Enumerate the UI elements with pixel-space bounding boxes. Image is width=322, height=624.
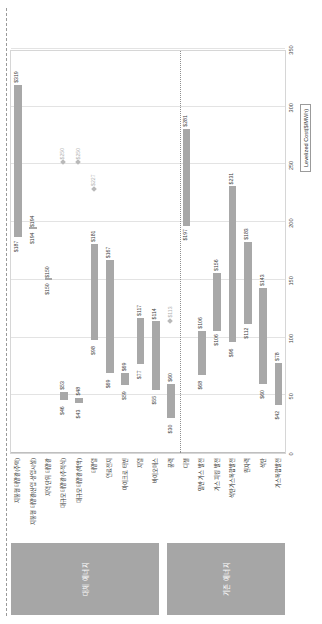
x-tick-label: 250 <box>288 161 294 170</box>
value-label-high: $69 <box>121 363 127 372</box>
category-label: 바이오매스 <box>149 458 162 483</box>
bar-range <box>29 227 37 229</box>
value-label-low: $106 <box>213 334 219 346</box>
value-label-low: $77 <box>136 370 142 379</box>
marker-diamond <box>60 160 66 166</box>
bar-range <box>244 242 252 324</box>
chart-row: $55$114 <box>149 51 164 453</box>
bar-range <box>259 288 267 384</box>
marker-diamond <box>167 318 173 324</box>
chart-row: $187$319 <box>11 51 26 453</box>
category-label-column: 지붕형 태양광(주택)지붕형 태양광(산업·상업시설)지역 단위 태양광대규모 … <box>10 456 286 534</box>
value-label-high: $106 <box>197 317 203 329</box>
value-label-high: $78 <box>274 352 280 361</box>
x-tick-label: 0 <box>288 452 294 455</box>
x-axis-ticks: 050100150200250300350 <box>288 50 300 454</box>
category-label: 지붕형 태양광(주택) <box>11 458 24 503</box>
category-label: 대규모 태양광(박막) <box>73 458 86 503</box>
category-label: 풍력 <box>165 458 178 468</box>
chart-row: $69$167 <box>103 51 118 453</box>
bar-range <box>152 321 160 389</box>
group-column: 대체 에너지 기존 에너지 <box>10 542 286 616</box>
category-label: 연료전지 <box>103 458 116 478</box>
chart-row: $60$143 <box>256 51 271 453</box>
value-label-low: $60 <box>259 390 265 399</box>
levelized-cost-chart: 대체 에너지 기존 에너지 지붕형 태양광(주택)지붕형 태양광(산업·상업시설… <box>0 0 322 624</box>
chart-row: $59$69 <box>118 51 133 453</box>
value-label-marker: $227 <box>90 174 96 186</box>
value-label-high: $114 <box>151 308 157 319</box>
value-label-high: $156 <box>213 259 219 271</box>
value-label-low: $55 <box>151 396 157 405</box>
value-label-low: $46 <box>59 406 65 415</box>
value-label-low: $194 <box>29 233 35 245</box>
bar-range <box>121 373 129 385</box>
bar-range <box>45 278 53 280</box>
value-label-low: $42 <box>274 411 280 420</box>
category-label: 지역 단위 태양광 <box>42 458 55 496</box>
bar-range <box>91 244 99 340</box>
group-box-alternative-energy: 대체 에너지 <box>10 542 160 616</box>
bar-range <box>229 186 237 342</box>
x-tick-label: 300 <box>288 103 294 112</box>
category-label: 석탄 <box>257 458 270 468</box>
chart-row: $68$106 <box>195 51 210 453</box>
value-label-high: $231 <box>228 173 234 185</box>
x-axis-title: Levelized Cost($/MWh) <box>300 104 311 172</box>
x-tick-label: 100 <box>288 334 294 343</box>
rotated-figure-wrapper: 대체 에너지 기존 에너지 지붕형 태양광(주택)지붕형 태양광(산업·상업시설… <box>0 0 322 624</box>
category-label: 가스 피킹 발전 <box>211 458 224 491</box>
chart-row: $150$150 <box>42 51 57 453</box>
bar-range <box>213 273 221 331</box>
value-label-high: $53 <box>59 381 65 390</box>
bar-range <box>137 318 145 364</box>
gridline-350 <box>11 48 285 49</box>
value-label-low: $98 <box>90 346 96 355</box>
category-label: 일반 가스 발전 <box>195 458 208 491</box>
value-label-low: $43 <box>75 410 81 419</box>
marker-diamond <box>91 186 97 192</box>
chart-row: $30$60$113 <box>164 51 179 453</box>
category-label: 지열 <box>134 458 147 468</box>
value-label-high: $60 <box>167 373 173 382</box>
value-label-low: $30 <box>167 425 173 434</box>
category-label: 대규모 태양광(추적식) <box>57 458 70 508</box>
category-label: 석탄가스복합발전 <box>226 458 239 498</box>
value-label-high: $150 <box>44 266 50 278</box>
bar-range <box>106 260 114 373</box>
chart-row: $43$48$250 <box>72 51 87 453</box>
bar-range <box>275 363 283 405</box>
chart-row: $98$181$227 <box>88 51 103 453</box>
value-label-low: $68 <box>197 381 203 390</box>
bar-range <box>167 384 175 419</box>
value-label-high: $281 <box>182 115 188 127</box>
value-label-marker: $113 <box>167 306 173 317</box>
value-label-low: $112 <box>243 328 249 339</box>
category-label: 원자력 <box>241 458 254 473</box>
page-canvas: 대체 에너지 기존 에너지 지붕형 태양광(주택)지붕형 태양광(산업·상업시설… <box>0 0 322 624</box>
category-label: 마이크로 터빈 <box>119 458 132 490</box>
value-label-low: $187 <box>13 241 19 253</box>
value-label-low: $150 <box>44 283 50 295</box>
value-label-high: $319 <box>13 71 19 83</box>
value-label-high: $48 <box>75 387 81 396</box>
value-label-marker: $250 <box>59 148 65 160</box>
chart-row: $77$117 <box>134 51 149 453</box>
chart-row: $112$183 <box>241 51 256 453</box>
marker-diamond <box>75 160 81 166</box>
chart-row: $197$281 <box>180 51 195 453</box>
x-tick-label: 200 <box>288 218 294 227</box>
group-box-conventional-energy: 기존 에너지 <box>166 542 286 616</box>
bar-range <box>183 129 191 226</box>
value-label-high: $117 <box>136 305 142 316</box>
x-tick-label: 150 <box>288 276 294 285</box>
bar-range <box>14 85 22 237</box>
value-label-low: $96 <box>228 349 234 358</box>
value-label-low: $59 <box>121 391 127 400</box>
value-label-marker: $250 <box>75 148 81 160</box>
bar-range <box>60 392 68 400</box>
bar-range <box>75 398 83 404</box>
chart-row: $194$194 <box>26 51 41 453</box>
group-label-conventional-energy: 기존 에너지 <box>221 562 231 596</box>
value-label-high: $143 <box>259 274 265 286</box>
